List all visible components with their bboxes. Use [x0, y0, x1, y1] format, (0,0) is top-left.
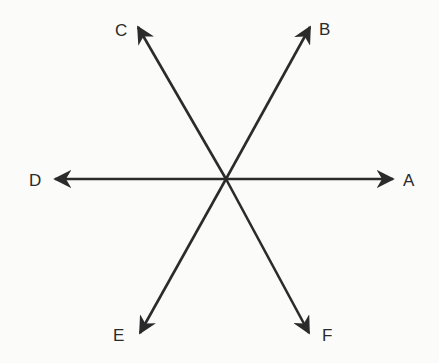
arrow-e: [140, 179, 226, 333]
arrow-label-e: E: [113, 326, 124, 345]
arrow-label-c: C: [115, 21, 127, 40]
arrow-label-a: A: [403, 171, 415, 190]
arrow-b: [226, 27, 310, 179]
arrow-c: [138, 27, 226, 179]
arrow-label-d: D: [29, 171, 41, 190]
arrows-canvas: ABCDEF: [0, 0, 439, 363]
arrow-label-f: F: [322, 326, 332, 345]
arrow-label-b: B: [319, 20, 330, 39]
arrow-f: [226, 179, 309, 333]
direction-diagram: ABCDEF A B C D E F: [0, 0, 439, 363]
